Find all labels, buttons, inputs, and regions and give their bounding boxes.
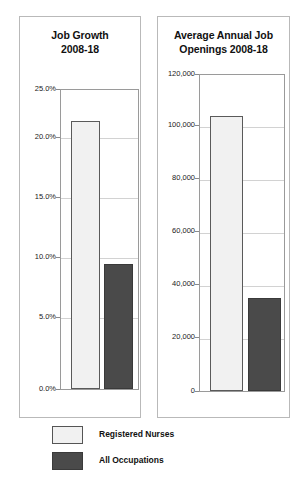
y-tick-label-5: 5.0% (20, 313, 56, 321)
figure-container: Job Growth 2008-18 25.0% 20.0% 15.0% 10.… (0, 0, 306, 490)
y-tick-label-60000: 60,000 (158, 227, 195, 235)
y-tick-label-0: 0 (158, 387, 195, 395)
legend-swatch-registered-nurses (52, 426, 83, 444)
y-tick-label-20: 20.0% (20, 133, 56, 141)
bar-registered-nurses-growth (71, 121, 100, 389)
y-tick-label-120000: 120,000 (158, 70, 195, 78)
plot-area-job-growth (60, 89, 139, 390)
y-tick-label-0: 0.0% (20, 385, 56, 393)
chart-title-job-growth: Job Growth 2008-18 (20, 29, 140, 56)
chart-title-line-2: Openings 2008-18 (158, 43, 289, 57)
chart-title-line-1: Average Annual Job (158, 29, 289, 43)
legend-item-all-occupations: All Occupations (52, 450, 262, 476)
bar-all-occupations-openings (248, 298, 281, 391)
chart-title-line-1: Job Growth (20, 29, 140, 43)
legend-label-all-occupations: All Occupations (99, 455, 164, 465)
legend-label-registered-nurses: Registered Nurses (99, 429, 174, 439)
y-tick-label-80000: 80,000 (158, 174, 195, 182)
y-tick-label-40000: 40,000 (158, 280, 195, 288)
plot-area-job-openings (199, 74, 285, 392)
y-tick-label-15: 15.0% (20, 193, 56, 201)
chart-title-job-openings: Average Annual Job Openings 2008-18 (158, 29, 289, 56)
legend-swatch-all-occupations (52, 452, 83, 470)
bar-registered-nurses-openings (210, 116, 243, 391)
y-tick-label-20000: 20,000 (158, 333, 195, 341)
bar-all-occupations-growth (104, 264, 133, 389)
y-tick-label-100000: 100,000 (158, 121, 195, 129)
legend-item-registered-nurses: Registered Nurses (52, 424, 262, 450)
chart-title-line-2: 2008-18 (20, 43, 140, 57)
chart-legend: Registered Nurses All Occupations (52, 424, 262, 476)
y-tick-label-10: 10.0% (20, 253, 56, 261)
y-tick-label-25: 25.0% (20, 85, 56, 93)
chart-panel-job-growth: Job Growth 2008-18 25.0% 20.0% 15.0% 10.… (19, 16, 141, 418)
chart-panel-job-openings: Average Annual Job Openings 2008-18 120,… (157, 16, 290, 418)
